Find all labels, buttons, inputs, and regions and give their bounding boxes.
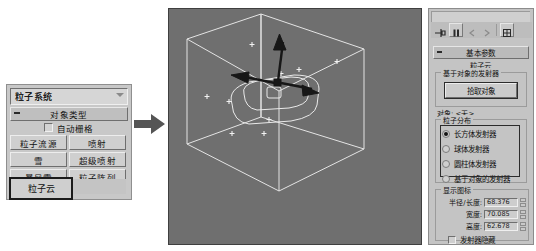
3d-viewport[interactable] [168, 8, 422, 245]
radius-length-row: 半径/长度: 68.376 [438, 197, 526, 207]
particle-system-create-panel: 粒子系统 对象类型 自动栅格 粒子流源 喷射 雪 超级喷射 暴风雪 粒子阵列 粒… [6, 84, 132, 200]
object-emitter-group-label: 基于对象的发射器 [441, 68, 501, 78]
radius-length-spinner[interactable] [520, 198, 526, 207]
btn-super-spray[interactable]: 超级喷射 [69, 152, 126, 167]
basic-params-rollout-header[interactable]: 基本参数 [433, 46, 529, 59]
object-emitter-group: 基于对象的发射器 拾取对象 [435, 72, 527, 107]
btn-snow[interactable]: 雪 [10, 152, 67, 167]
emitter-hidden-row[interactable]: 发射器隐藏 [448, 234, 526, 245]
radio-indicator-icon[interactable] [442, 145, 450, 153]
panel-name-strip [431, 11, 530, 22]
panel-filler [71, 179, 126, 194]
object-type-rollout-title: 对象类型 [50, 108, 88, 120]
radio-indicator-icon[interactable] [442, 130, 450, 138]
btn-pcloud-selected[interactable]: 粒子云 [9, 177, 73, 200]
pick-object-button-label: 拾取对象 [467, 85, 495, 96]
height-row: 高度: 62.678 [438, 221, 526, 231]
pause-icon[interactable] [449, 23, 463, 37]
button-row: 粒子流源 喷射 [10, 135, 126, 150]
radio-indicator-icon[interactable] [442, 175, 450, 183]
button-row: 雪 超级喷射 [10, 152, 126, 167]
basic-params-rollout-title: 基本参数 [466, 47, 495, 58]
emitter-hidden-label: 发射器隐藏 [460, 234, 495, 245]
btn-pcloud-label: 粒子云 [28, 182, 55, 195]
particle-distribution-group: 粒子分布 长方体发射器 球体发射器 圆柱体发射器 基于对象的发射器 [435, 119, 527, 183]
command-panel: 基本参数 粒子云 基于对象的发射器 拾取对象 对象: <无> 粒子分布 长方体发… [428, 8, 534, 245]
btn-spray[interactable]: 喷射 [69, 135, 126, 150]
distribution-options-frame [441, 126, 519, 176]
width-label: 宽度: [466, 209, 482, 219]
flow-arrow-right-icon [134, 112, 166, 136]
object-type-rollout-header[interactable]: 对象类型 [10, 107, 128, 121]
height-spinner[interactable] [520, 222, 526, 231]
chevron-down-icon[interactable] [116, 93, 124, 97]
category-dropdown-value: 粒子系统 [11, 90, 52, 103]
display-icon-group: 显示图标 半径/长度: 68.376 宽度: 70.085 高度: 62.678… [435, 189, 529, 241]
next-icon[interactable] [481, 24, 493, 36]
toolbar-divider [496, 24, 497, 36]
autogrid-label: 自动栅格 [57, 122, 93, 134]
radius-length-label: 半径/长度: [449, 197, 482, 207]
category-dropdown[interactable]: 粒子系统 [10, 88, 128, 105]
collapse-minus-icon[interactable] [437, 51, 442, 53]
pin-stack-icon[interactable] [434, 24, 446, 36]
btn-particle-flow-source[interactable]: 粒子流源 [10, 135, 67, 150]
display-icon-group-label: 显示图标 [441, 185, 473, 195]
pick-object-button[interactable]: 拾取对象 [445, 83, 517, 98]
command-panel-toolbar [431, 22, 532, 38]
particle-distribution-group-label: 粒子分布 [441, 115, 473, 125]
width-row: 宽度: 70.085 [438, 209, 526, 219]
emitter-hidden-checkbox[interactable] [448, 236, 456, 244]
radio-indicator-icon[interactable] [442, 160, 450, 168]
radius-length-input[interactable]: 68.376 [484, 198, 518, 207]
collapse-minus-icon[interactable] [14, 112, 20, 114]
config-icon[interactable] [500, 23, 514, 37]
width-input[interactable]: 70.085 [484, 210, 518, 219]
autogrid-row[interactable]: 自动栅格 [10, 121, 126, 134]
viewport-scene [169, 9, 421, 244]
autogrid-checkbox[interactable] [44, 123, 53, 132]
emitter-box-wireframe [187, 14, 364, 191]
prev-icon[interactable] [466, 24, 478, 36]
width-spinner[interactable] [520, 210, 526, 219]
height-input[interactable]: 62.678 [484, 222, 518, 231]
height-label: 高度: [466, 221, 482, 231]
